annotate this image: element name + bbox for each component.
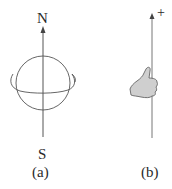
panel-b-graphic [130, 13, 157, 138]
plus-label: + [157, 6, 165, 20]
axis-arrowhead-b-icon [150, 13, 155, 19]
caption-a: (a) [32, 165, 49, 180]
south-pole-label: S [38, 147, 46, 162]
axis-arrowhead-a-icon [41, 26, 46, 33]
right-hand-thumb-icon [130, 67, 157, 97]
north-pole-label: N [37, 11, 48, 26]
panel-a-graphic [11, 26, 76, 137]
caption-b: (b) [141, 165, 159, 180]
diagram-canvas [0, 0, 172, 189]
